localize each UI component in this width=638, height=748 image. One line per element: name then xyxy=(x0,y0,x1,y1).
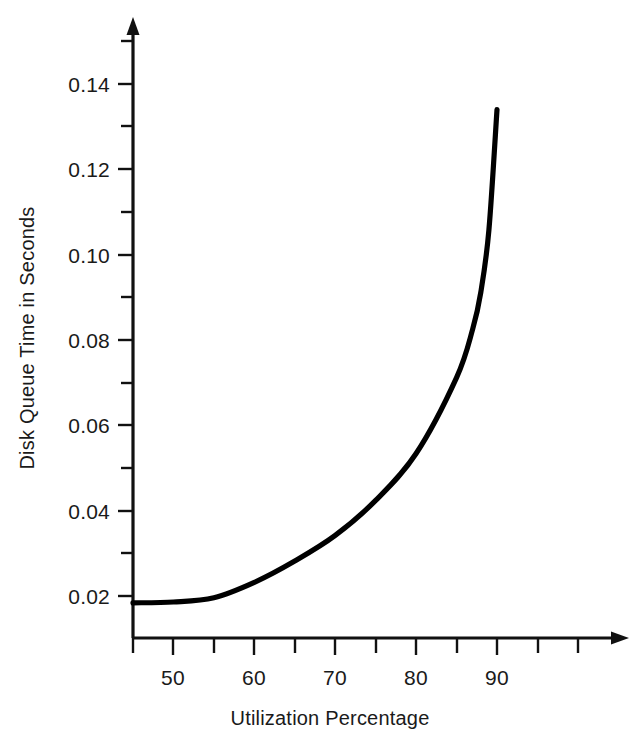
y-tick-label: 0.04 xyxy=(68,500,110,523)
x-axis-title: Utilization Percentage xyxy=(231,707,430,729)
y-tick-label: 0.14 xyxy=(68,73,110,96)
y-tick-label: 0.02 xyxy=(68,585,110,608)
x-tick-label: 60 xyxy=(242,666,266,689)
x-tick-label: 70 xyxy=(323,666,347,689)
chart-background xyxy=(0,0,638,748)
x-tick-label: 80 xyxy=(404,666,428,689)
y-tick-label: 0.06 xyxy=(68,414,110,437)
x-tick-label: 90 xyxy=(485,666,509,689)
y-tick-label: 0.08 xyxy=(68,329,110,352)
y-tick-label: 0.12 xyxy=(68,158,110,181)
disk-queue-time-line-chart: 0.14 0.12 0.10 0.08 0.06 0.04 0.02 xyxy=(0,0,638,748)
y-tick-label: 0.10 xyxy=(68,244,110,267)
chart-container: 0.14 0.12 0.10 0.08 0.06 0.04 0.02 xyxy=(0,0,638,748)
y-axis-title: Disk Queue Time in Seconds xyxy=(16,206,38,469)
x-tick-label: 50 xyxy=(161,666,185,689)
